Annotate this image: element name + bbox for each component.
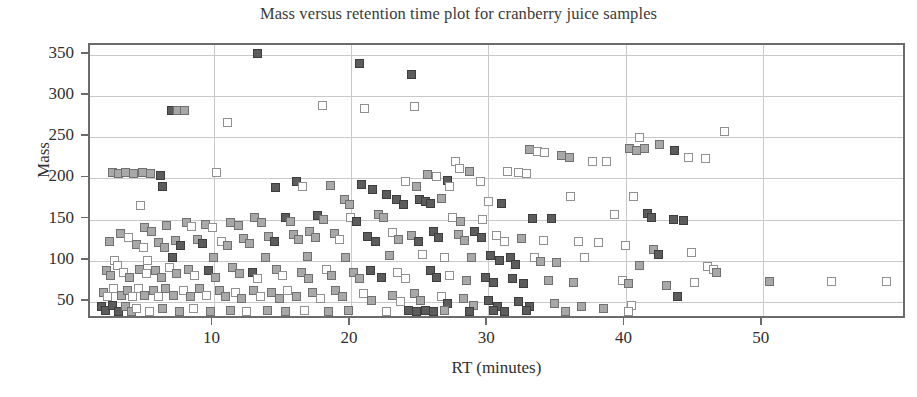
data-point	[202, 291, 211, 300]
data-point	[143, 256, 152, 265]
data-point	[275, 294, 284, 303]
data-point	[720, 127, 729, 136]
data-point	[106, 271, 115, 280]
y-tick-mark	[81, 134, 88, 136]
data-point	[257, 218, 266, 227]
data-point	[621, 241, 630, 250]
data-point	[536, 257, 545, 266]
x-tick-label: 10	[182, 329, 242, 346]
data-point	[566, 192, 575, 201]
data-point	[580, 253, 589, 262]
data-point	[319, 215, 328, 224]
plot-area	[88, 43, 905, 318]
y-tick-label: 150	[14, 209, 74, 226]
data-point	[145, 307, 154, 316]
y-tick-label: 100	[14, 250, 74, 267]
data-point	[154, 292, 163, 301]
data-point	[235, 269, 244, 278]
data-point	[357, 180, 366, 189]
data-point	[477, 233, 486, 242]
data-point	[385, 251, 394, 260]
data-point	[128, 292, 137, 301]
data-point	[544, 276, 553, 285]
data-point	[561, 307, 570, 316]
data-point	[467, 253, 476, 262]
data-point	[212, 168, 221, 177]
data-point	[139, 243, 148, 252]
data-point	[687, 248, 696, 257]
data-point	[367, 296, 376, 305]
data-point	[382, 190, 391, 199]
data-point	[401, 177, 410, 186]
data-point	[662, 281, 671, 290]
data-point	[565, 153, 574, 162]
data-point	[327, 271, 336, 280]
y-tick-label: 200	[14, 167, 74, 184]
y-axis-label: Mass	[34, 100, 54, 220]
data-point	[429, 307, 438, 316]
data-point	[180, 106, 189, 115]
data-point	[655, 140, 664, 149]
data-point	[253, 49, 262, 58]
y-tick-mark	[81, 299, 88, 301]
data-point	[484, 197, 493, 206]
y-tick-mark	[81, 176, 88, 178]
y-tick-label: 300	[14, 85, 74, 102]
data-point	[432, 172, 441, 181]
data-point	[226, 306, 235, 315]
data-point	[594, 238, 603, 247]
data-point	[318, 101, 327, 110]
data-point	[158, 304, 167, 313]
data-point	[394, 235, 403, 244]
data-point	[550, 299, 559, 308]
data-point	[624, 279, 633, 288]
data-point	[401, 274, 410, 283]
data-point	[410, 102, 419, 111]
data-point	[635, 133, 644, 142]
data-point	[176, 241, 185, 250]
data-point	[189, 304, 198, 313]
data-point	[175, 307, 184, 316]
data-point	[223, 118, 232, 127]
data-point	[186, 292, 195, 301]
data-point	[540, 148, 549, 157]
data-point	[440, 253, 449, 262]
data-point	[245, 239, 254, 248]
y-tick-label: 250	[14, 126, 74, 143]
data-point	[701, 154, 710, 163]
data-point	[382, 307, 391, 316]
data-point	[426, 199, 435, 208]
data-point	[132, 304, 141, 313]
data-point	[478, 215, 487, 224]
data-point	[105, 237, 114, 246]
data-point	[242, 307, 251, 316]
data-point	[206, 307, 215, 316]
data-point	[172, 269, 181, 278]
data-point	[602, 157, 611, 166]
y-tick-mark	[81, 52, 88, 54]
data-point	[497, 199, 506, 208]
x-tick-mark	[760, 318, 762, 325]
data-point	[574, 237, 583, 246]
data-point	[528, 214, 537, 223]
data-point	[508, 274, 517, 283]
data-point	[156, 171, 165, 180]
data-point	[237, 294, 246, 303]
data-point	[371, 237, 380, 246]
data-point	[465, 307, 474, 316]
data-point	[440, 306, 449, 315]
x-tick-mark	[623, 318, 625, 325]
data-point	[344, 306, 353, 315]
data-point	[368, 185, 377, 194]
data-point	[624, 307, 633, 316]
scatter-points	[90, 45, 903, 316]
data-point	[366, 266, 375, 275]
y-tick-mark	[81, 217, 88, 219]
y-tick-mark	[81, 93, 88, 95]
data-point	[147, 227, 156, 236]
data-point	[345, 200, 354, 209]
x-tick-label: 30	[456, 329, 516, 346]
data-point	[547, 214, 556, 223]
data-point	[654, 250, 663, 259]
data-point	[500, 237, 509, 246]
